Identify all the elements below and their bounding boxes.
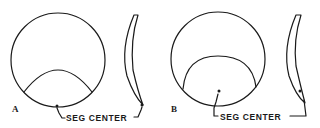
lens-a-segment-arc <box>24 70 92 92</box>
panel-a-label: A <box>12 104 19 114</box>
panel-b-label: B <box>171 104 177 114</box>
panel-a: A SEG CENTER <box>11 13 144 123</box>
lens-a-side-leader <box>134 107 142 117</box>
lens-b-seg-center-callout: SEG CENTER <box>220 112 281 122</box>
lens-b-side-profile <box>287 15 305 103</box>
lens-a-seg-center-callout: SEG CENTER <box>66 113 127 123</box>
lens-b-side-seg-center-dot <box>299 90 302 93</box>
bifocal-lens-diagram: A SEG CENTER B SEG CENTER <box>0 0 320 128</box>
lens-b-segment-arc <box>183 56 256 89</box>
lens-b-seg-center-dot <box>218 90 221 93</box>
lens-a-front-leader <box>57 108 65 118</box>
lens-a-front-outline <box>11 13 105 107</box>
lens-a-seg-center-dot <box>56 105 59 108</box>
lens-a-side-seg-center-dot <box>141 104 144 107</box>
lens-a-side-profile <box>125 15 143 105</box>
panel-b: B SEG CENTER <box>171 12 306 122</box>
lens-b-front-leader <box>214 94 218 116</box>
